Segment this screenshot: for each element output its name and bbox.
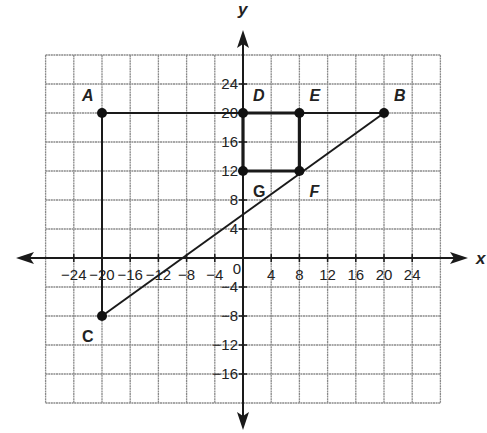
x-tick-label: 12 (319, 266, 336, 283)
x-tick-label: 8 (295, 266, 303, 283)
point-b (379, 108, 389, 118)
y-tick-label: 24 (221, 75, 238, 92)
point-c (97, 311, 107, 321)
x-tick-label: −8 (178, 266, 195, 283)
x-axis-label: x (475, 249, 487, 268)
y-tick-label: −16 (213, 365, 238, 382)
origin-label: 0 (233, 260, 241, 277)
x-tick-label: 20 (376, 266, 393, 283)
x-tick-label: 4 (267, 266, 275, 283)
y-tick-label: 8 (230, 191, 238, 208)
point-label-b: B (394, 87, 406, 104)
point-e (294, 108, 304, 118)
y-axis-label: y (237, 0, 249, 19)
y-tick-label: −12 (213, 336, 238, 353)
point-f (294, 166, 304, 176)
point-label-d: D (253, 87, 265, 104)
y-tick-label: 16 (221, 133, 238, 150)
point-label-f: F (309, 183, 320, 200)
point-g (238, 166, 248, 176)
y-tick-label: 12 (221, 162, 238, 179)
point-label-e: E (309, 87, 321, 104)
point-label-a: A (81, 87, 94, 104)
point-d (238, 108, 248, 118)
x-tick-label: 16 (347, 266, 364, 283)
x-tick-label: −24 (61, 266, 86, 283)
point-label-g: G (253, 183, 265, 200)
y-tick-label: −4 (221, 278, 238, 295)
axes: x y 0 (16, 0, 487, 430)
x-tick-label: 24 (404, 266, 421, 283)
point-a (97, 108, 107, 118)
point-label-c: C (82, 328, 94, 345)
coordinate-plane: x y 0 −24−20−16−12−8−4481216202424201612… (0, 0, 487, 433)
y-tick-label: −8 (221, 307, 238, 324)
x-tick-label: −16 (117, 266, 142, 283)
